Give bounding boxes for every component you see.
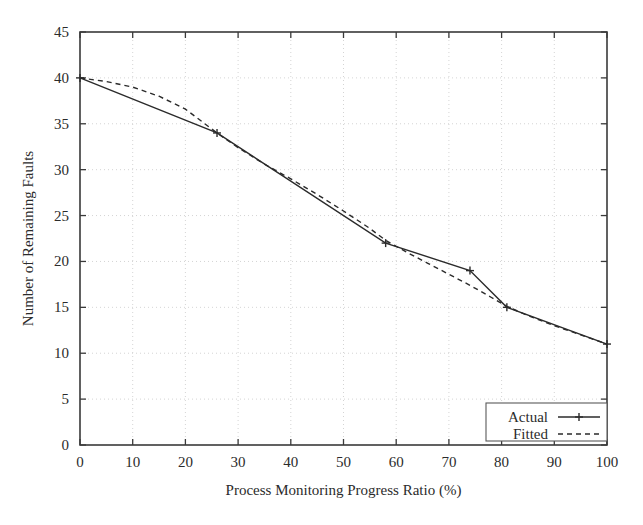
line-chart: 0102030405060708090100051015202530354045… xyxy=(0,0,643,525)
data-point-marker xyxy=(382,239,390,247)
series-layer xyxy=(76,74,611,348)
x-tick-label: 90 xyxy=(547,454,562,470)
y-tick-label: 15 xyxy=(54,299,69,315)
y-tick-label: 25 xyxy=(54,208,69,224)
y-tick-label: 5 xyxy=(62,391,70,407)
legend-label-fitted: Fitted xyxy=(513,426,549,442)
y-tick-label: 30 xyxy=(54,162,69,178)
x-tick-label: 40 xyxy=(283,454,298,470)
x-tick-label: 30 xyxy=(231,454,246,470)
x-tick-label: 100 xyxy=(596,454,619,470)
x-axis-title: Process Monitoring Progress Ratio (%) xyxy=(226,482,462,499)
x-tick-label: 70 xyxy=(441,454,456,470)
x-tick-label: 60 xyxy=(389,454,404,470)
y-tick-label: 40 xyxy=(54,70,69,86)
y-tick-label: 10 xyxy=(54,345,69,361)
y-tick-label: 35 xyxy=(54,116,69,132)
grid-layer xyxy=(80,32,607,445)
y-axis-title: Number of Remaining Faults xyxy=(20,151,36,327)
x-tick-label: 50 xyxy=(336,454,351,470)
x-tick-label: 0 xyxy=(76,454,84,470)
y-tick-label: 45 xyxy=(54,24,69,40)
x-tick-label: 20 xyxy=(178,454,193,470)
tick-layer xyxy=(80,32,607,445)
x-tick-label: 80 xyxy=(494,454,509,470)
x-tick-label: 10 xyxy=(125,454,140,470)
legend-label-actual: Actual xyxy=(508,409,548,425)
chart-legend: ActualFitted xyxy=(486,403,607,442)
plot-frame xyxy=(80,32,607,445)
chart-figure: 0102030405060708090100051015202530354045… xyxy=(0,0,643,525)
y-tick-label: 20 xyxy=(54,253,69,269)
y-tick-label: 0 xyxy=(62,437,70,453)
